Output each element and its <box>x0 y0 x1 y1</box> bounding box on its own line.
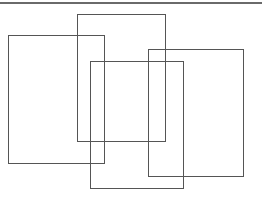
rect-right <box>148 49 244 177</box>
top-rule-divider <box>0 2 262 4</box>
diagram-canvas <box>0 0 262 203</box>
